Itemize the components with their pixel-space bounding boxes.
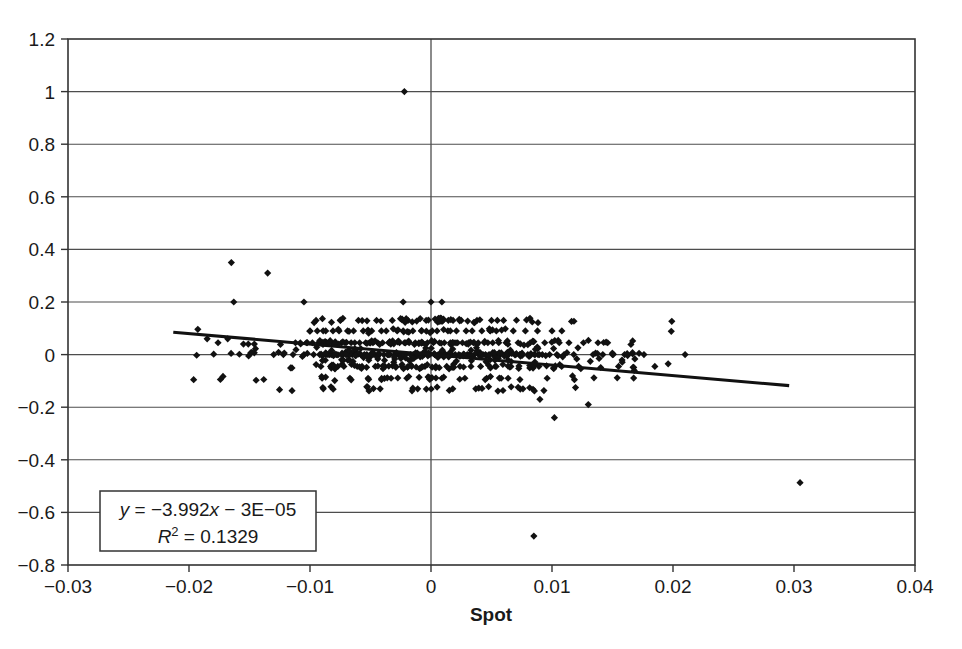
chart-canvas: −0.03−0.02−0.0100.010.020.030.04 −0.8−0.… xyxy=(0,0,962,649)
scatter-chart-figure: −0.03−0.02−0.0100.010.020.030.04 −0.8−0.… xyxy=(0,0,962,649)
y-tick-label: −0.4 xyxy=(17,450,55,471)
x-tick-label: −0.02 xyxy=(165,576,213,597)
y-tick-label: −0.2 xyxy=(17,397,55,418)
r-exponent: 2 xyxy=(171,524,178,539)
y-axis-tick-marks xyxy=(61,39,68,565)
y-tick-label: 0.6 xyxy=(29,187,55,208)
equation-coefficient: = −3.992 xyxy=(129,499,209,520)
equation-intercept: − 3E−05 xyxy=(219,499,296,520)
y-tick-label: 0.2 xyxy=(29,292,55,313)
x-axis-tick-labels: −0.03−0.02−0.0100.010.020.030.04 xyxy=(44,576,934,597)
x-tick-label: 0.02 xyxy=(655,576,692,597)
x-tick-label: −0.03 xyxy=(44,576,92,597)
equation-annotation-box: y = −3.992x − 3E−05 R2 = 0.1329 xyxy=(100,491,316,551)
x-tick-label: 0 xyxy=(426,576,437,597)
x-axis-title: Spot xyxy=(470,604,513,625)
y-tick-label: −0.8 xyxy=(17,555,55,576)
x-tick-label: 0.04 xyxy=(897,576,934,597)
x-tick-label: −0.01 xyxy=(286,576,334,597)
x-tick-label: 0.03 xyxy=(776,576,813,597)
y-tick-label: 0 xyxy=(44,345,55,366)
y-axis-tick-labels: −0.8−0.6−0.4−0.200.20.40.60.811.2 xyxy=(17,29,55,576)
y-tick-label: 0.4 xyxy=(29,239,56,260)
r-symbol: R xyxy=(158,526,172,547)
y-tick-label: −0.6 xyxy=(17,502,55,523)
x-tick-label: 0.01 xyxy=(534,576,571,597)
regression-equation: y = −3.992x − 3E−05 xyxy=(118,499,296,520)
y-tick-label: 0.8 xyxy=(29,134,55,155)
y-tick-label: 1 xyxy=(44,82,55,103)
r-squared-number: = 0.1329 xyxy=(179,526,259,547)
y-tick-label: 1.2 xyxy=(29,29,55,50)
